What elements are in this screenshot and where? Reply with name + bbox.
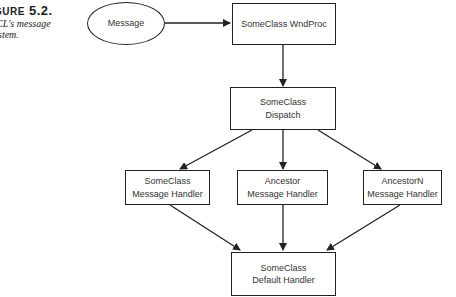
edge-dispatch-to-someclass-handler bbox=[180, 130, 252, 169]
ancestorn-handler-line1: AncestorN bbox=[381, 175, 423, 187]
default-handler-line1: SomeClass bbox=[260, 262, 306, 274]
dispatch-label-line2: Dispatch bbox=[265, 109, 300, 121]
someclass-handler-line1: SomeClass bbox=[144, 175, 190, 187]
dispatch-node: SomeClass Dispatch bbox=[230, 87, 336, 130]
ancestor-handler-line2: Message Handler bbox=[247, 188, 318, 200]
edge-ancestorn-handler-to-default bbox=[327, 205, 400, 250]
ancestor-handler-line1: Ancestor bbox=[265, 175, 301, 187]
message-node: Message bbox=[87, 2, 165, 45]
ancestorn-handler-node: AncestorN Message Handler bbox=[363, 170, 442, 205]
default-handler-line2: Default Handler bbox=[252, 274, 315, 286]
edge-dispatch-to-ancestorn-handler bbox=[318, 130, 381, 169]
wndproc-label: SomeClass WndProc bbox=[241, 18, 327, 30]
ancestor-handler-node: Ancestor Message Handler bbox=[237, 170, 328, 205]
message-label: Message bbox=[108, 17, 145, 29]
someclass-handler-node: SomeClass Message Handler bbox=[125, 170, 210, 205]
dispatch-label-line1: SomeClass bbox=[260, 96, 306, 108]
connector-layer bbox=[0, 0, 456, 297]
someclass-handler-line2: Message Handler bbox=[132, 188, 203, 200]
wndproc-node: SomeClass WndProc bbox=[232, 3, 336, 45]
default-handler-node: SomeClass Default Handler bbox=[231, 252, 336, 296]
edge-someclass-handler-to-default bbox=[170, 205, 240, 250]
ancestorn-handler-line2: Message Handler bbox=[367, 188, 438, 200]
